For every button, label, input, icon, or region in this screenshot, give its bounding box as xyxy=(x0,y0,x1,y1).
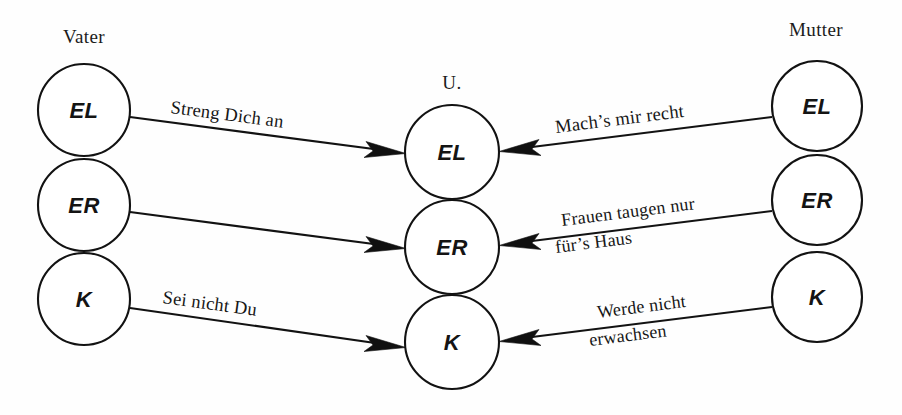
edge-vater-k-to-u-k[interactable]: Sei nicht Du xyxy=(130,287,406,351)
node-label: EL xyxy=(69,98,98,123)
diagram-canvas: Vater U. Mutter Streng Dich an Sei nicht… xyxy=(0,0,902,415)
node-vater-el[interactable]: EL xyxy=(38,64,130,156)
node-mutter-er[interactable]: ER xyxy=(772,155,862,245)
edge-label-machs-mir-recht: Mach’s mir recht xyxy=(554,101,686,137)
node-u-el[interactable]: EL xyxy=(405,105,499,199)
edge-label-werde-nicht-line2: erwachsen xyxy=(588,320,668,350)
node-mutter-el[interactable]: EL xyxy=(772,61,862,151)
edge-vater-er-to-u-er[interactable] xyxy=(130,212,406,253)
node-vater-k[interactable]: K xyxy=(38,253,130,345)
edge-mutter-er-to-u-er[interactable]: Frauen taugen nur für’s Haus xyxy=(499,193,772,257)
column-heading-left: Vater xyxy=(63,26,105,47)
column-heading-right: Mutter xyxy=(789,19,843,40)
node-label: K xyxy=(76,287,94,312)
node-u-er[interactable]: ER xyxy=(405,200,499,294)
edge-mutter-el-to-u-el[interactable]: Mach’s mir recht xyxy=(499,101,772,156)
edge-label-werde-nicht-line1: Werde nicht xyxy=(596,291,687,322)
node-vater-er[interactable]: ER xyxy=(38,159,130,251)
node-label: K xyxy=(444,330,462,355)
node-u-k[interactable]: K xyxy=(405,295,499,389)
node-label: EL xyxy=(802,94,831,119)
node-mutter-k[interactable]: K xyxy=(772,252,862,342)
node-label: ER xyxy=(436,235,468,260)
edge-line xyxy=(130,212,389,246)
edge-label-streng-dich-an: Streng Dich an xyxy=(169,97,284,131)
edge-line xyxy=(130,308,389,345)
column-heading-center: U. xyxy=(442,72,461,93)
diagram-svg: Vater U. Mutter Streng Dich an Sei nicht… xyxy=(0,0,902,415)
edge-label-frauen-taugen-nur-line2: für’s Haus xyxy=(554,227,633,257)
node-label: ER xyxy=(68,193,100,218)
arrowhead-icon xyxy=(364,336,406,352)
edge-vater-el-to-u-el[interactable]: Streng Dich an xyxy=(130,97,406,157)
edge-mutter-k-to-u-k[interactable]: Werde nicht erwachsen xyxy=(499,291,772,350)
node-label: EL xyxy=(437,140,466,165)
node-label: K xyxy=(809,285,827,310)
node-label: ER xyxy=(801,188,833,213)
edge-label-frauen-taugen-nur-line1: Frauen taugen nur xyxy=(560,193,696,230)
